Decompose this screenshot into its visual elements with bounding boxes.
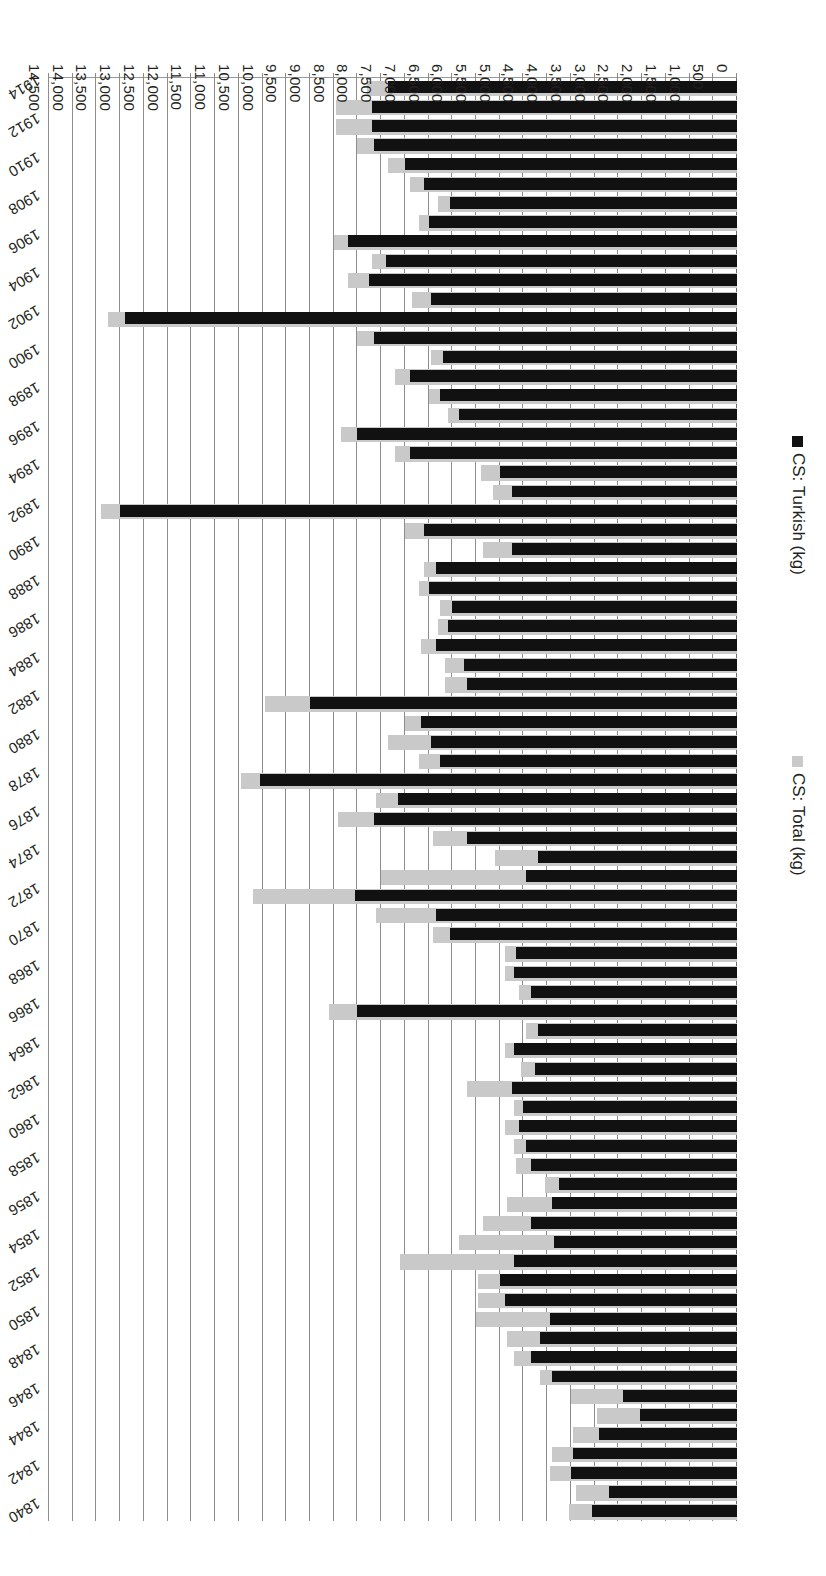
bar-turkish: [526, 870, 737, 882]
bar-turkish: [459, 409, 737, 421]
category-tick-label: 1878: [6, 764, 43, 795]
value-tick-label: 8,000: [334, 64, 351, 103]
bar-turkish: [514, 967, 737, 979]
bar-turkish: [125, 312, 737, 324]
category-tick-label: 1880: [6, 726, 43, 757]
bar-turkish: [443, 351, 737, 363]
bar-turkish: [357, 428, 737, 440]
category-tick-label: 1866: [6, 995, 43, 1026]
bar-turkish: [357, 1005, 737, 1017]
bar-turkish: [526, 1140, 737, 1152]
bar-turkish: [410, 370, 737, 382]
bar-turkish: [592, 1505, 737, 1517]
axis-tick: [380, 73, 381, 78]
legend-item-cs-turkish: CS: Turkish (kg): [788, 436, 808, 575]
gridline: [333, 78, 334, 1521]
category-tick-label: 1884: [6, 649, 43, 680]
category-tick-label: 1882: [6, 687, 43, 718]
category-tick-label: 1872: [6, 880, 43, 911]
category-tick-label: 1846: [6, 1380, 43, 1411]
bar-turkish: [500, 1274, 737, 1286]
value-tick-label: 7,000: [382, 64, 399, 103]
bar-turkish: [540, 1332, 737, 1344]
category-tick-label: 1868: [6, 957, 43, 988]
bar-turkish: [452, 601, 737, 613]
category-tick-label: 1912: [6, 110, 43, 141]
bar-turkish: [512, 486, 737, 498]
bar-turkish: [554, 1236, 737, 1248]
bar-turkish: [538, 851, 737, 863]
axis-tick: [48, 73, 49, 78]
bar-turkish: [386, 255, 737, 267]
legend-swatch-turkish-icon: [792, 436, 803, 447]
value-tick-label: 14,000: [50, 64, 67, 111]
category-tick-label: 1874: [6, 841, 43, 872]
bar-turkish: [571, 1467, 737, 1479]
category-tick-label: 1896: [6, 418, 43, 449]
axis-tick: [665, 73, 666, 78]
bar-turkish: [405, 158, 737, 170]
category-tick-label: 1888: [6, 572, 43, 603]
category-tick-label: 1876: [6, 803, 43, 834]
axis-tick: [475, 73, 476, 78]
value-tick-label: 1,500: [643, 64, 660, 103]
bar-turkish: [523, 1101, 737, 1113]
bar-turkish: [552, 1371, 737, 1383]
plot-area: [49, 78, 737, 1521]
bar-turkish: [467, 832, 737, 844]
bar-turkish: [431, 293, 737, 305]
category-tick-label: 1900: [6, 341, 43, 372]
bar-turkish: [369, 274, 737, 286]
value-tick-label: 8,500: [311, 64, 328, 103]
gridline: [214, 78, 215, 1521]
bar-turkish: [519, 1120, 737, 1132]
bar-turkish: [464, 659, 737, 671]
value-tick-label: 4,500: [500, 64, 517, 103]
category-tick-label: 1858: [6, 1149, 43, 1180]
value-tick-label: 2,500: [595, 64, 612, 103]
category-tick-label: 1842: [6, 1457, 43, 1488]
value-tick-label: 10,500: [216, 64, 233, 111]
bar-turkish: [436, 639, 737, 651]
gridline: [285, 78, 286, 1521]
bar-turkish: [531, 986, 737, 998]
bar-turkish: [640, 1409, 737, 1421]
value-tick-label: 11,000: [192, 64, 209, 110]
bar-turkish: [120, 505, 737, 517]
bar-turkish: [260, 774, 737, 786]
gridline: [262, 78, 263, 1521]
bar-turkish: [514, 1043, 737, 1055]
bar-turkish: [436, 562, 737, 574]
legend-label-total: CS: Total (kg): [789, 773, 808, 876]
bar-turkish: [531, 1159, 737, 1171]
value-tick-label: 9,000: [287, 64, 304, 103]
bar-turkish: [424, 178, 737, 190]
axis-tick: [309, 73, 310, 78]
gridline: [143, 78, 144, 1521]
bar-turkish: [623, 1390, 737, 1402]
bar-turkish: [440, 755, 737, 767]
bar-turkish: [398, 793, 737, 805]
bar-turkish: [599, 1428, 737, 1440]
category-tick-label: 1904: [6, 264, 43, 295]
value-tick-label: 5,500: [453, 64, 470, 103]
legend-swatch-total-icon: [792, 756, 803, 767]
category-tick-label: 1856: [6, 1188, 43, 1219]
bar-turkish: [424, 524, 737, 536]
bar-turkish: [512, 543, 737, 555]
category-tick-label: 1902: [6, 303, 43, 334]
legend-item-cs-total: CS: Total (kg): [788, 756, 808, 876]
gridline: [309, 78, 310, 1521]
bar-turkish: [431, 736, 737, 748]
bar-turkish: [374, 332, 737, 344]
bar-turkish: [374, 139, 737, 151]
gridline: [167, 78, 168, 1521]
bar-turkish: [514, 1255, 737, 1267]
value-tick-label: 3,500: [548, 64, 565, 103]
bar-turkish: [429, 216, 737, 228]
axis-tick: [143, 73, 144, 78]
bar-turkish: [429, 582, 737, 594]
axis-tick: [570, 73, 571, 78]
bar-turkish: [535, 1063, 737, 1075]
bar-turkish: [552, 1197, 737, 1209]
